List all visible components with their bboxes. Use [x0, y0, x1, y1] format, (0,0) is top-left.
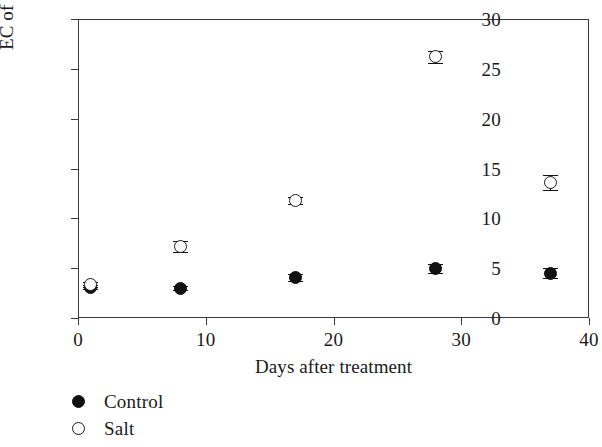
x-axis-tick-label: 0	[48, 330, 108, 349]
x-axis-tick-label: 20	[304, 330, 364, 349]
y-axis-tick	[71, 119, 78, 120]
data-point-control	[174, 282, 187, 295]
legend-item-control: Control	[72, 388, 322, 415]
figure-container: EC of leachate (ds m−1) 0510152025300102…	[0, 0, 602, 447]
y-axis-tick-label: 15	[457, 160, 501, 179]
y-axis-tick	[71, 19, 78, 20]
y-axis-tick-label: 20	[457, 110, 501, 129]
y-axis-tick	[71, 268, 78, 269]
x-axis-tick-label: 10	[176, 330, 236, 349]
y-axis-tick	[71, 69, 78, 70]
y-axis-tick	[71, 169, 78, 170]
data-point-control	[429, 262, 442, 275]
legend-item-salt: Salt	[72, 415, 322, 442]
x-axis-tick	[206, 318, 207, 325]
x-axis-tick-label: 40	[559, 330, 602, 349]
data-point-control	[544, 267, 557, 280]
x-axis-tick	[78, 318, 79, 325]
x-axis-tick	[461, 318, 462, 325]
y-axis-title: EC of leachate (ds m−1)	[0, 0, 18, 50]
x-axis-tick	[334, 318, 335, 325]
y-axis-tick-label: 0	[457, 309, 501, 328]
x-axis-title: Days after treatment	[78, 356, 589, 378]
y-axis-tick-label: 25	[457, 60, 501, 79]
filled-circle-icon	[72, 395, 85, 408]
y-axis-tick	[71, 218, 78, 219]
data-point-salt	[174, 240, 187, 253]
data-point-salt	[289, 194, 302, 207]
chart-legend: Control Salt	[72, 388, 322, 442]
data-point-control	[289, 271, 302, 284]
legend-label-control: Control	[104, 391, 163, 413]
y-axis-title-text: EC of leachate (ds m	[0, 0, 17, 50]
x-axis-tick	[589, 318, 590, 325]
y-axis-tick-label: 10	[457, 209, 501, 228]
y-axis-tick	[71, 318, 78, 319]
open-circle-icon	[72, 422, 85, 435]
error-bar-cap	[543, 190, 558, 191]
y-axis-tick-label: 5	[457, 259, 501, 278]
legend-label-salt: Salt	[104, 418, 134, 440]
y-axis-tick-label: 30	[457, 10, 501, 29]
data-point-salt	[544, 176, 557, 189]
x-axis-tick-label: 30	[431, 330, 491, 349]
data-point-salt	[84, 278, 97, 291]
data-point-salt	[429, 50, 442, 63]
plot-canvas: 051015202530010203040	[78, 19, 589, 318]
